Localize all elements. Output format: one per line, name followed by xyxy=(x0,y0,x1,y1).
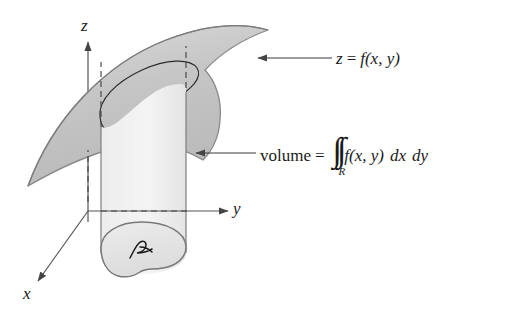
volume-eq-args: (x, y) xyxy=(349,147,384,164)
y-axis-label: y xyxy=(233,200,241,217)
volume-equation-label: volume= ∫∫ R f(x, y)dxdy xyxy=(260,136,428,176)
double-integral-figure: z y x z=f(x, y) volume= ∫∫ R f(x, y)dxdy xyxy=(0,0,511,315)
volume-eq-dy: dy xyxy=(412,147,428,164)
integral-region-subscript: R xyxy=(339,166,346,177)
surface-eq-args: (x, y) xyxy=(365,49,400,68)
volume-eq-equals: = xyxy=(311,147,329,164)
surface-eq-equals: = xyxy=(343,49,361,68)
integral-signs: ∫∫ xyxy=(333,136,342,165)
region-r xyxy=(101,222,186,277)
double-integral-symbol: ∫∫ R xyxy=(333,136,342,176)
surface-equation-label: z=f(x, y) xyxy=(336,50,400,67)
z-axis-label: z xyxy=(81,17,88,34)
x-axis-label: x xyxy=(23,285,31,302)
volume-eq-word: volume xyxy=(260,147,311,164)
figure-canvas xyxy=(0,0,511,315)
volume-eq-dx: dx xyxy=(390,147,406,164)
x-axis xyxy=(38,211,88,281)
surface-eq-z: z xyxy=(336,49,343,68)
x-axis-line xyxy=(38,211,88,281)
